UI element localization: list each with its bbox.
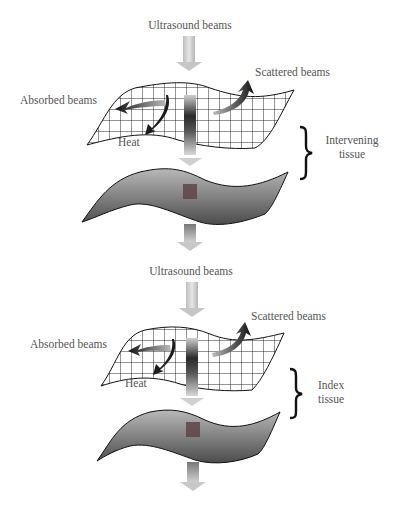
- bracket-icon: [300, 127, 312, 179]
- focal-spot: [183, 184, 197, 199]
- incoming-arrow-icon: [176, 36, 202, 71]
- absorbed-beams-label: Absorbed beams: [20, 94, 97, 106]
- absorbed-beams-label: Absorbed beams: [30, 338, 107, 350]
- focal-spot: [186, 422, 200, 437]
- panel-index-tissue: Ultrasound beams Absorbed beams Scattere…: [30, 265, 344, 491]
- exit-beam-icon: [177, 224, 203, 251]
- bracket-label-line2: tissue: [318, 393, 344, 405]
- scattered-beams-label: Scattered beams: [251, 310, 327, 322]
- ultrasound-diagram: Ultrasound beams Absorbed beams Scattere: [0, 0, 398, 508]
- bracket-label: Index: [318, 379, 344, 391]
- scattered-beams-label: Scattered beams: [255, 66, 331, 78]
- incoming-beam-label: Ultrasound beams: [149, 265, 233, 277]
- target-tissue-layer: [82, 169, 288, 225]
- panel-intervening-tissue: Ultrasound beams Absorbed beams Scattere: [20, 19, 379, 251]
- bracket-icon: [290, 369, 302, 418]
- incoming-arrow-icon: [179, 282, 205, 317]
- bracket-label: Intervening: [325, 134, 378, 147]
- bracket-label-line2: tissue: [339, 148, 365, 160]
- incoming-beam-label: Ultrasound beams: [148, 19, 232, 31]
- target-tissue-layer: [97, 410, 280, 463]
- heat-label: Heat: [118, 136, 141, 148]
- heat-label: Heat: [125, 377, 148, 389]
- exit-beam-icon: [180, 462, 206, 491]
